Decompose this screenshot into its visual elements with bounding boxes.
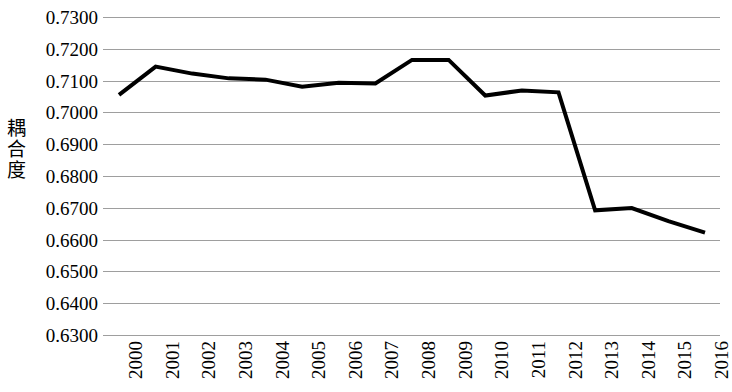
y-tick-label: 0.6400 — [6, 294, 98, 313]
x-tick-label[interactable]: 2005 — [309, 341, 328, 379]
y-tick-label: 0.7100 — [6, 71, 98, 90]
y-tick-label: 0.6800 — [6, 167, 98, 186]
x-tick-label[interactable]: 2007 — [382, 341, 401, 379]
y-tick-label: 0.6900 — [6, 135, 98, 154]
x-tick-label[interactable]: 2006 — [346, 341, 365, 379]
y-tick-label: 0.6500 — [6, 262, 98, 281]
x-tick-label[interactable]: 2016 — [712, 341, 731, 379]
x-tick-label[interactable]: 2008 — [419, 341, 438, 379]
y-axis-tick-labels: 0.73000.72000.71000.70000.69000.68000.67… — [0, 0, 98, 392]
x-tick-label[interactable]: 2011 — [529, 341, 548, 378]
x-tick-label[interactable]: 2012 — [566, 341, 585, 379]
x-tick-label[interactable]: 2000 — [126, 341, 145, 379]
y-tick-label: 0.7000 — [6, 103, 98, 122]
x-tick-label[interactable]: 2010 — [492, 341, 511, 379]
y-tick-label: 0.6700 — [6, 198, 98, 217]
x-tick-label[interactable]: 2004 — [273, 341, 292, 379]
y-tick-label: 0.6600 — [6, 230, 98, 249]
y-tick-label: 0.7300 — [6, 8, 98, 27]
y-tick-label: 0.7200 — [6, 39, 98, 58]
x-tick-label[interactable]: 2001 — [163, 341, 182, 379]
x-tick-label[interactable]: 2014 — [639, 341, 658, 379]
x-tick-label[interactable]: 2002 — [199, 341, 218, 379]
y-tick-label: 0.6300 — [6, 326, 98, 345]
series-polyline — [119, 60, 705, 233]
plot-area — [103, 0, 720, 392]
x-tick-label[interactable]: 2009 — [456, 341, 475, 379]
x-tick-label[interactable]: 2015 — [675, 341, 694, 379]
x-tick-label[interactable]: 2003 — [236, 341, 255, 379]
x-tick-label[interactable]: 2013 — [602, 341, 621, 379]
line-series-coupling-degree — [103, 0, 720, 392]
